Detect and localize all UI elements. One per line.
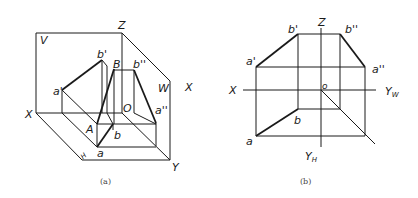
- label-x-right: X: [184, 81, 193, 94]
- label-a-a: a: [97, 147, 104, 160]
- label-b-b: b: [294, 114, 301, 127]
- label-x-left: X: [24, 108, 33, 121]
- label-b-a: b: [114, 129, 121, 142]
- label-yw: YW: [385, 85, 400, 99]
- figure-a-pictorial: Z V W X X O Y H b' a' B b'' a'' A b a (a…: [24, 19, 193, 186]
- orthographic-projection-figure: Z V W X X O Y H b' a' B b'' a'' A b a (a…: [0, 0, 418, 198]
- label-w-plane: W: [158, 82, 170, 95]
- line-ab-b: [256, 109, 298, 136]
- label-origin-a: O: [123, 102, 132, 115]
- label-yh: YH: [305, 150, 318, 164]
- label-b-double-prime-a: b'': [133, 58, 146, 71]
- label-a-double-prime-b: a'': [372, 63, 385, 76]
- label-v-plane: V: [40, 34, 49, 47]
- label-a-prime-a: a': [53, 85, 63, 98]
- line-AB: [97, 69, 114, 124]
- line-ab: [97, 124, 113, 147]
- label-B: B: [113, 58, 121, 71]
- y-axis-a: [122, 113, 170, 160]
- figure-b-orthographic: Z X o YW YH b' a' b'' a'' b a (b): [228, 16, 400, 186]
- label-b-double-prime-b: b'': [345, 23, 358, 36]
- caption-b: (b): [300, 177, 311, 186]
- label-z-a: Z: [117, 19, 126, 32]
- projector: [62, 90, 97, 124]
- line-a-double-prime-b-double-prime-b: [340, 34, 365, 67]
- label-a-prime-b: a': [246, 55, 256, 68]
- label-origin-b: o: [322, 81, 328, 91]
- label-y-a: Y: [172, 161, 180, 174]
- projector: [107, 113, 113, 124]
- line-a-prime-b-prime: [62, 60, 102, 90]
- label-x-b: X: [228, 84, 237, 97]
- label-b-prime-b: b': [288, 23, 298, 36]
- label-a-double-prime-a: a'': [155, 104, 168, 117]
- label-A: A: [85, 123, 94, 136]
- label-a-b: a: [246, 135, 253, 148]
- w-plane-outline: [122, 33, 170, 160]
- label-h-plane: H: [79, 151, 89, 161]
- line-a-prime-b-prime-b: [256, 34, 298, 67]
- caption-a: (a): [100, 177, 111, 186]
- v-plane-outline: [36, 33, 122, 113]
- label-z-b: Z: [317, 16, 326, 29]
- label-b-prime-a: b': [97, 48, 107, 61]
